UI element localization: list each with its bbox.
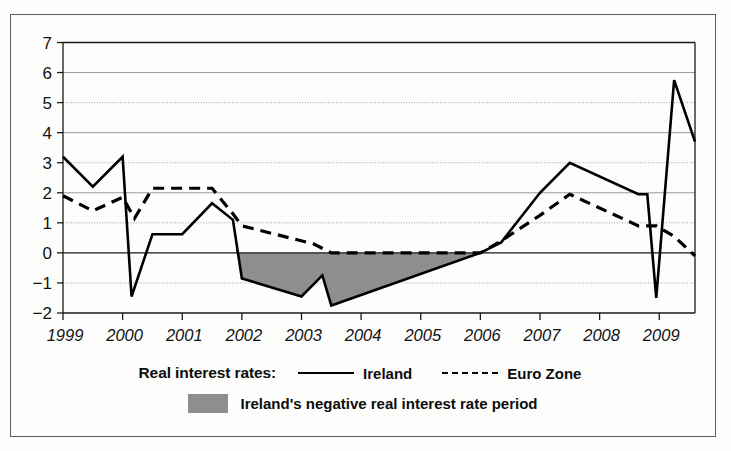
plot-area: −2−101234567 199920002001200220032004200… [33, 34, 695, 345]
y-tick-label: −2 [33, 304, 52, 323]
x-tick-label: 2002 [225, 326, 263, 344]
x-tick-label: 2001 [165, 326, 203, 344]
legend-row-shaded: Ireland's negative real interest rate pe… [10, 388, 716, 418]
legend-label-ireland: Ireland [363, 365, 412, 382]
legend-item-shaded-period: Ireland's negative real interest rate pe… [188, 394, 537, 413]
y-tick-label: 2 [43, 184, 52, 203]
x-tick-label: 2008 [582, 326, 621, 344]
legend-item-euro-zone: Euro Zone [412, 365, 581, 382]
legend-label-shaded-period: Ireland's negative real interest rate pe… [240, 395, 537, 412]
x-tick-label: 2007 [523, 326, 562, 344]
legend-item-ireland: Ireland [276, 365, 412, 382]
x-tick-label: 2005 [403, 326, 442, 344]
y-tick-label: 1 [43, 214, 52, 233]
x-tick-label: 2004 [344, 326, 382, 344]
dashed-line-swatch-icon [442, 372, 498, 374]
y-tick-label: 6 [43, 64, 52, 83]
series-line-euro-zone [63, 188, 695, 256]
figure-container: −2−101234567 199920002001200220032004200… [0, 0, 731, 451]
y-tick-label: 0 [43, 244, 52, 263]
legend-label-euro-zone: Euro Zone [507, 365, 581, 382]
legend-row-series: Real interest rates: Ireland Euro Zone [10, 358, 716, 388]
y-tick-label: 4 [43, 124, 52, 143]
y-axis-tick-labels: −2−101234567 [33, 34, 52, 324]
x-tick-label: 1999 [47, 326, 84, 344]
chart-legend: Real interest rates: Ireland Euro Zone I… [10, 358, 716, 434]
y-tick-label: 5 [43, 94, 52, 113]
x-tick-label: 2000 [105, 326, 144, 344]
y-tick-label: 7 [43, 34, 52, 53]
solid-line-swatch-icon [298, 372, 354, 374]
x-tick-label: 2009 [642, 326, 680, 344]
x-axis-tick-labels: 1999200020012002200320042005200620072008… [47, 326, 680, 344]
legend-title: Real interest rates: [139, 364, 277, 382]
y-tick-label: −1 [33, 274, 52, 293]
shaded-area-swatch-icon [188, 394, 228, 413]
x-tick-label: 2003 [284, 326, 323, 344]
x-tick-label: 2006 [463, 326, 502, 344]
y-tick-label: 3 [43, 154, 52, 173]
